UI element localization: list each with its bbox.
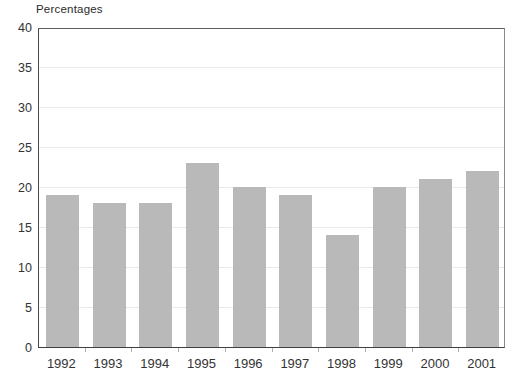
- bar-1994: [139, 203, 172, 347]
- x-tick-label: 1993: [85, 356, 131, 372]
- x-tick-label: 2000: [412, 356, 458, 372]
- bar-1998: [326, 235, 359, 347]
- bar-1993: [93, 203, 126, 347]
- x-tick-label: 1998: [319, 356, 365, 372]
- plot-area: [38, 28, 505, 348]
- y-tick-label: 35: [2, 60, 32, 76]
- x-tick-mark: [458, 348, 459, 352]
- y-tick-label: 20: [2, 180, 32, 196]
- bar-1997: [279, 195, 312, 347]
- x-tick-label: 1995: [178, 356, 224, 372]
- bar-1995: [186, 163, 219, 347]
- y-tick-label: 5: [2, 300, 32, 316]
- x-tick-mark: [131, 348, 132, 352]
- x-tick-label: 1997: [272, 356, 318, 372]
- x-tick-mark: [178, 348, 179, 352]
- y-tick-label: 30: [2, 100, 32, 116]
- x-tick-label: 2001: [459, 356, 505, 372]
- bar-1999: [373, 187, 406, 347]
- x-tick-label: 1992: [38, 356, 84, 372]
- chart-title: Percentages: [36, 3, 103, 15]
- bar-2000: [419, 179, 452, 347]
- y-tick-label: 40: [2, 20, 32, 36]
- x-tick-label: 1996: [225, 356, 271, 372]
- gridline: [39, 147, 504, 148]
- gridline: [39, 107, 504, 108]
- x-tick-mark: [225, 348, 226, 352]
- y-tick-label: 25: [2, 140, 32, 156]
- bar-1996: [233, 187, 266, 347]
- x-tick-label: 1999: [365, 356, 411, 372]
- x-tick-label: 1994: [132, 356, 178, 372]
- y-tick-label: 0: [2, 340, 32, 356]
- y-tick-label: 10: [2, 260, 32, 276]
- y-tick-label: 15: [2, 220, 32, 236]
- x-tick-mark: [412, 348, 413, 352]
- x-tick-mark: [365, 348, 366, 352]
- gridline: [39, 67, 504, 68]
- bar-1992: [46, 195, 79, 347]
- x-tick-mark: [85, 348, 86, 352]
- bar-2001: [466, 171, 499, 347]
- x-tick-mark: [318, 348, 319, 352]
- bar-chart: Percentages 0510152025303540 19921993199…: [0, 0, 518, 388]
- x-tick-mark: [272, 348, 273, 352]
